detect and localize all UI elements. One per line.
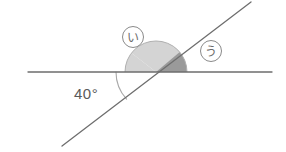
geometry-canvas: 40° い う xyxy=(0,0,286,152)
angle-i-label-group: い xyxy=(123,27,144,48)
angle-u-label-glyph: う xyxy=(205,45,217,59)
angle-u-label-group: う xyxy=(201,41,222,62)
diagonal-line xyxy=(62,2,251,146)
angle-i-label-glyph: い xyxy=(127,31,139,45)
forty-degree-label: 40° xyxy=(74,85,98,102)
geometry-diagram: 40° い う xyxy=(0,0,286,152)
forty-degree-arc xyxy=(116,72,127,99)
